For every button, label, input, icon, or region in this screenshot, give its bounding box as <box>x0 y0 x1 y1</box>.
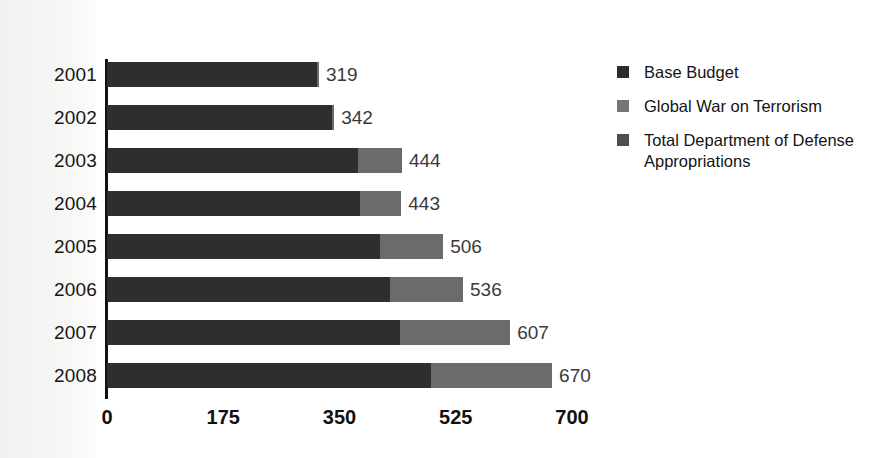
year-label: 2005 <box>27 234 97 259</box>
bar-row[interactable] <box>107 62 319 87</box>
bar-row[interactable] <box>107 148 402 173</box>
bar-segment-base-budget[interactable] <box>107 105 332 130</box>
y-axis-tick-label: 2006 <box>27 277 97 302</box>
legend-label: Total Department of Defense Appropriatio… <box>644 130 867 172</box>
year-label: 2008 <box>27 363 97 388</box>
x-axis-tick-label: 350 <box>323 406 356 429</box>
y-axis-tick-label: 2007 <box>27 320 97 345</box>
horizontal-stacked-bar-chart: 319342444443506536607670 0175350525700 B… <box>0 0 873 458</box>
legend-label: Global War on Terrorism <box>644 96 867 117</box>
y-axis-tick-label: 2004 <box>27 191 97 216</box>
legend-swatch-icon <box>617 66 629 78</box>
y-axis-tick-label: 2005 <box>27 234 97 259</box>
bar-segment-base-budget[interactable] <box>107 62 317 87</box>
year-label: 2007 <box>27 320 97 345</box>
legend-label: Base Budget <box>644 62 867 83</box>
bar-segment-gwot[interactable] <box>332 105 334 130</box>
bar-value-label: 319 <box>326 62 358 87</box>
bar-value-label: 443 <box>408 191 440 216</box>
year-label: 2002 <box>27 105 97 130</box>
bar-segment-base-budget[interactable] <box>107 277 390 302</box>
legend-swatch-icon <box>617 134 629 146</box>
year-label: 2001 <box>27 62 97 87</box>
year-label: 2006 <box>27 277 97 302</box>
bar-row[interactable] <box>107 105 334 130</box>
bar-value-label: 670 <box>559 363 591 388</box>
bar-value-label: 342 <box>341 105 373 130</box>
x-axis-tick-label: 175 <box>207 406 240 429</box>
bar-value-label: 506 <box>450 234 482 259</box>
y-axis-tick-label: 2001 <box>27 62 97 87</box>
bar-segment-base-budget[interactable] <box>107 320 400 345</box>
bar-row[interactable] <box>107 234 443 259</box>
bar-segment-gwot[interactable] <box>317 62 319 87</box>
bar-segment-base-budget[interactable] <box>107 363 431 388</box>
y-axis-tick-label: 2002 <box>27 105 97 130</box>
bar-value-label: 607 <box>517 320 549 345</box>
year-label: 2003 <box>27 148 97 173</box>
y-axis-tick-label: 2008 <box>27 363 97 388</box>
bar-row[interactable] <box>107 363 552 388</box>
bar-segment-base-budget[interactable] <box>107 234 380 259</box>
x-axis-tick-label: 0 <box>101 406 112 429</box>
bar-row[interactable] <box>107 277 463 302</box>
legend-item[interactable]: Total Department of Defense Appropriatio… <box>617 130 867 172</box>
x-axis-tick-label: 525 <box>439 406 472 429</box>
bar-row[interactable] <box>107 191 401 216</box>
year-label: 2004 <box>27 191 97 216</box>
legend-item[interactable]: Base Budget <box>617 62 867 83</box>
plot-area: 319342444443506536607670 <box>107 62 572 392</box>
bar-segment-gwot[interactable] <box>358 148 402 173</box>
bar-segment-base-budget[interactable] <box>107 148 358 173</box>
bar-row[interactable] <box>107 320 510 345</box>
chart-legend: Base BudgetGlobal War on TerrorismTotal … <box>617 62 867 185</box>
legend-swatch-icon <box>617 100 629 112</box>
bar-segment-gwot[interactable] <box>400 320 510 345</box>
bar-segment-gwot[interactable] <box>360 191 401 216</box>
bar-value-label: 536 <box>470 277 502 302</box>
x-axis: 0175350525700 <box>0 398 873 438</box>
bar-segment-gwot[interactable] <box>431 363 553 388</box>
legend-item[interactable]: Global War on Terrorism <box>617 96 867 117</box>
bar-value-label: 444 <box>409 148 441 173</box>
bar-segment-base-budget[interactable] <box>107 191 360 216</box>
bar-segment-gwot[interactable] <box>380 234 443 259</box>
y-axis-tick-label: 2003 <box>27 148 97 173</box>
x-axis-tick-label: 700 <box>555 406 588 429</box>
bar-segment-gwot[interactable] <box>390 277 463 302</box>
